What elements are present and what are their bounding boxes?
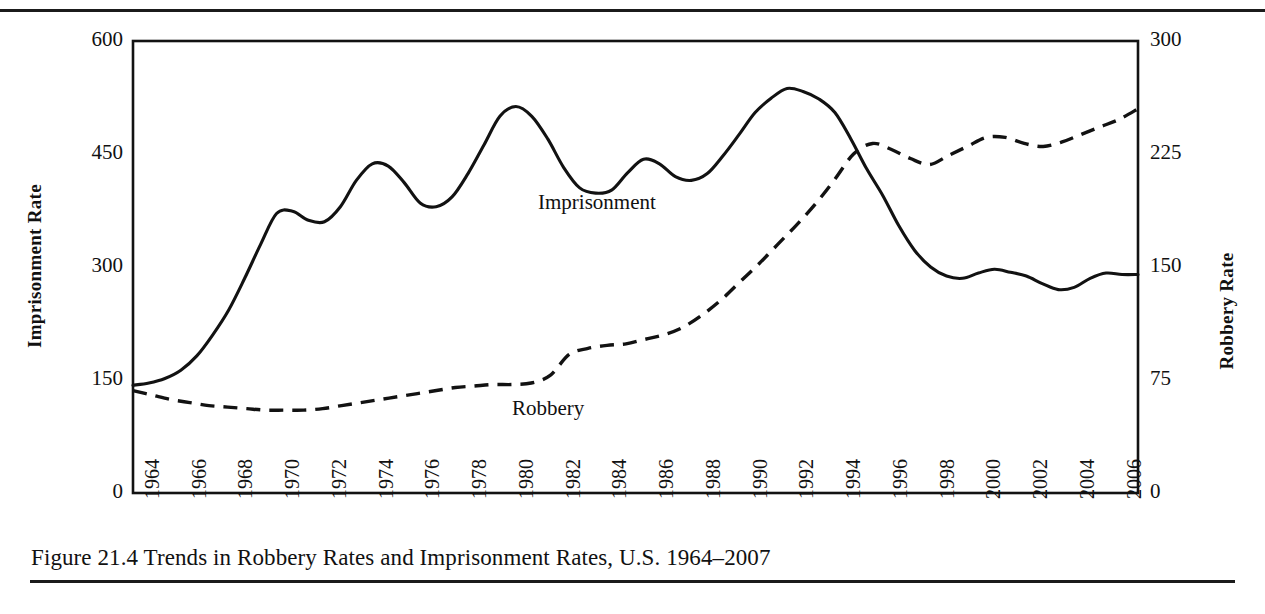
series-label-robbery: Robbery — [512, 396, 584, 421]
x-axis-tick-1996: 1996 — [889, 459, 912, 499]
y-axis-left-title: Imprisonment Rate — [24, 184, 46, 348]
x-axis-tick-1988: 1988 — [702, 459, 725, 499]
y-axis-left-tick-450: 450 — [55, 140, 123, 165]
x-axis-tick-1982: 1982 — [562, 459, 585, 499]
y-axis-right-tick-150: 150 — [1150, 253, 1182, 278]
y-axis-right-tick-225: 225 — [1150, 140, 1182, 165]
x-axis-tick-1978: 1978 — [468, 459, 491, 499]
y-axis-left-tick-600: 600 — [55, 27, 123, 52]
series-line-robbery — [133, 109, 1138, 410]
plot-frame — [133, 41, 1138, 493]
x-axis-tick-1992: 1992 — [795, 459, 818, 499]
x-axis-tick-1984: 1984 — [608, 459, 631, 499]
x-axis-tick-2006: 2006 — [1123, 459, 1146, 499]
x-axis-tick-1986: 1986 — [655, 459, 678, 499]
x-axis-tick-1972: 1972 — [328, 459, 351, 499]
x-axis-tick-1994: 1994 — [842, 459, 865, 499]
x-axis-tick-1964: 1964 — [141, 459, 164, 499]
x-axis-tick-1968: 1968 — [234, 459, 257, 499]
y-axis-left-tick-150: 150 — [55, 366, 123, 391]
y-axis-right-tick-300: 300 — [1150, 27, 1182, 52]
figure-caption: Figure 21.4 Trends in Robbery Rates and … — [31, 545, 771, 571]
x-axis-tick-2004: 2004 — [1076, 459, 1099, 499]
x-axis-tick-1970: 1970 — [281, 459, 304, 499]
y-axis-right-title: Robbery Rate — [1216, 252, 1238, 369]
y-axis-right-tick-0: 0 — [1150, 479, 1161, 504]
figure-container: Imprisonment Rate Robbery Rate 015030045… — [0, 0, 1265, 614]
y-axis-right-tick-75: 75 — [1150, 366, 1171, 391]
series-label-imprisonment: Imprisonment — [538, 190, 656, 215]
x-axis-tick-2000: 2000 — [982, 459, 1005, 499]
x-axis-tick-1966: 1966 — [188, 459, 211, 499]
caption-rule — [30, 580, 1235, 583]
x-axis-tick-1976: 1976 — [421, 459, 444, 499]
x-axis-tick-1990: 1990 — [749, 459, 772, 499]
x-axis-tick-1998: 1998 — [936, 459, 959, 499]
y-axis-left-tick-300: 300 — [55, 253, 123, 278]
x-axis-tick-1980: 1980 — [515, 459, 538, 499]
y-axis-left-tick-0: 0 — [55, 479, 123, 504]
x-axis-tick-2002: 2002 — [1029, 459, 1052, 499]
plot-area: Imprisonment Rate Robbery Rate 015030045… — [0, 0, 1265, 540]
x-axis-tick-1974: 1974 — [375, 459, 398, 499]
